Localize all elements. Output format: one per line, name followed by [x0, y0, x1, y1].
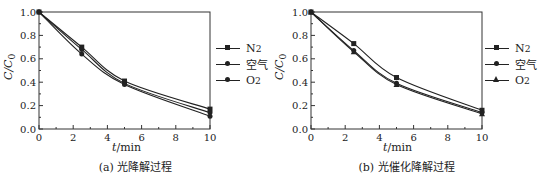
legend-item-n2: N2: [216, 40, 268, 56]
svg-text:4: 4: [376, 132, 382, 143]
legend-item-o2: O2: [216, 72, 268, 88]
caption: (b) 光催化降解过程: [271, 158, 542, 174]
x-axis-label: t/min: [112, 141, 141, 154]
svg-text:0.0: 0.0: [20, 124, 36, 135]
legend-item-air: 空气: [485, 56, 537, 72]
circle-marker-icon: [225, 61, 230, 66]
legend-item-air: 空气: [216, 56, 268, 72]
legend-item-n2: N2: [485, 40, 537, 56]
legend: N2 空气 O2: [216, 40, 268, 88]
svg-text:10: 10: [204, 132, 217, 143]
svg-text:1.0: 1.0: [292, 7, 308, 18]
svg-text:0.8: 0.8: [20, 30, 36, 41]
circle-marker-icon: [225, 77, 230, 82]
legend: N2 空气 O2: [485, 40, 537, 88]
svg-text:10: 10: [476, 132, 489, 143]
svg-text:0: 0: [308, 132, 314, 143]
svg-text:0: 0: [36, 132, 42, 143]
svg-text:8: 8: [173, 132, 179, 143]
panel-a: 02468100.00.20.40.60.81.0 C/C0 t/min N2 …: [0, 0, 271, 179]
y-axis-label: C/C0: [273, 54, 288, 80]
svg-text:0.6: 0.6: [20, 53, 36, 64]
svg-text:4: 4: [104, 132, 110, 143]
svg-text:0.2: 0.2: [292, 100, 308, 111]
svg-text:0.8: 0.8: [292, 30, 308, 41]
svg-text:0.4: 0.4: [292, 77, 308, 88]
triangle-marker-icon: [493, 76, 499, 82]
legend-item-o2: O2: [485, 72, 537, 88]
svg-text:1.0: 1.0: [20, 7, 36, 18]
y-axis-label: C/C0: [2, 54, 17, 80]
svg-text:2: 2: [70, 132, 76, 143]
svg-text:0.4: 0.4: [20, 77, 36, 88]
svg-text:8: 8: [445, 132, 451, 143]
svg-text:2: 2: [342, 132, 348, 143]
square-marker-icon: [494, 45, 499, 50]
svg-text:0.6: 0.6: [292, 53, 308, 64]
circle-marker-icon: [494, 61, 499, 66]
x-axis-label: t/min: [383, 141, 412, 154]
caption: (a) 光降解过程: [0, 158, 271, 174]
svg-text:0.2: 0.2: [20, 100, 36, 111]
square-marker-icon: [225, 45, 230, 50]
svg-text:0.0: 0.0: [292, 124, 308, 135]
panel-b: 02468100.00.20.40.60.81.0 C/C0 t/min N2 …: [271, 0, 542, 179]
